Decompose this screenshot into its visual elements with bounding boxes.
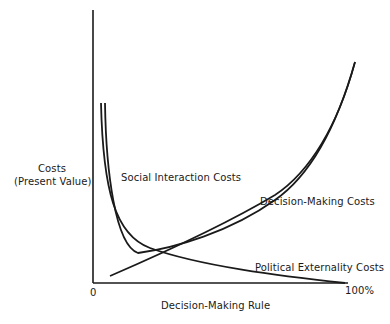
- political-externality-costs-label: Political Externality Costs: [255, 262, 384, 273]
- social-interaction-costs-curve: [105, 62, 355, 253]
- x-tick-start: 0: [90, 287, 96, 298]
- y-axis-label-line1: Costs: [14, 162, 90, 175]
- y-axis-label-line2: (Present Value): [14, 175, 90, 188]
- x-tick-end: 100%: [345, 285, 374, 296]
- decision-making-costs-curve: [110, 62, 355, 276]
- political-externality-costs-curve: [101, 103, 345, 283]
- x-axis-label: Decision-Making Rule: [161, 300, 270, 311]
- decision-making-costs-label: Decision-Making Costs: [260, 196, 375, 207]
- social-interaction-costs-label: Social Interaction Costs: [121, 172, 241, 183]
- y-axis-label: Costs (Present Value): [14, 162, 90, 188]
